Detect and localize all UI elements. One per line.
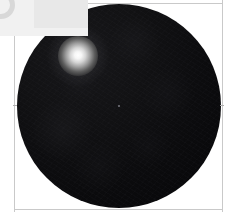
partial-ring-glyph-icon xyxy=(0,0,15,19)
center-marker xyxy=(118,105,120,107)
axis-line-bottom xyxy=(14,209,223,210)
bright-spot xyxy=(58,36,98,76)
corner-overlay-block xyxy=(34,0,88,28)
corner-overlay-panel[interactable] xyxy=(0,0,88,36)
axis-tick-left xyxy=(13,105,17,106)
axis-tick-right xyxy=(220,105,224,106)
axis-line-right xyxy=(222,0,223,212)
image-viewer xyxy=(0,0,230,212)
